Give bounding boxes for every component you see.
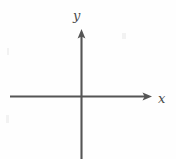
- scan-artifact-right-top: [122, 33, 126, 39]
- scan-artifact-left-upper: [7, 48, 9, 55]
- axes-drawing: [0, 0, 176, 159]
- x-axis-label: x: [158, 92, 165, 105]
- y-axis-label: y: [73, 9, 80, 22]
- scan-artifact-left-lower: [6, 115, 9, 123]
- coordinate-axes-figure: y x: [0, 0, 176, 159]
